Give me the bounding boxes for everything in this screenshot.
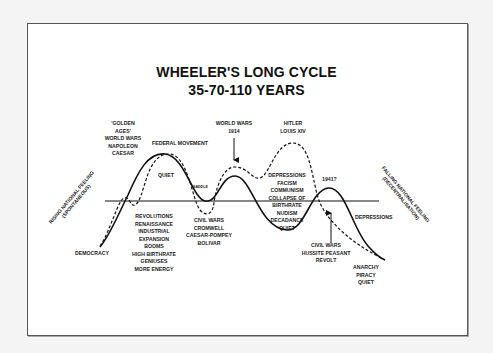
civil-wars-block-label: CIVIL WARS CROMWELL CAESAR-POMPEY BOLIVA…: [178, 217, 240, 247]
label-line: COLLAPSE OF: [262, 195, 312, 203]
label-line: QUIET: [348, 279, 384, 287]
depressions-right-label: DEPRESSIONS: [355, 214, 392, 222]
label-line: CAESAR: [96, 150, 150, 158]
label-line: INDUSTRIAL: [125, 228, 183, 236]
label-line: CAESAR-POMPEY: [178, 232, 240, 240]
democracy-label: DEMOCRACY: [75, 250, 109, 258]
anarchy-block-label: ANARCHY PIRACY QUIET: [348, 264, 384, 287]
civil-wars-right-label: CIVIL WARS HUSSITE PEASANT REVOLT: [295, 242, 357, 265]
saddle-label: SADDLE: [193, 184, 208, 192]
golden-ages-label: 'GOLDEN AGES' WORLD WARS NAPOLEON CAESAR: [96, 120, 150, 158]
quiet-label: QUIET: [158, 172, 174, 180]
label-line: FACISM: [262, 180, 312, 188]
label-line: CROMWELL: [178, 225, 240, 233]
label-line: LOUIS XIV: [271, 128, 315, 136]
label-line: MORE ENERGY: [125, 266, 183, 274]
label-line: REVOLUTIONS: [125, 213, 183, 221]
label-line: DEPRESSIONS: [262, 172, 312, 180]
label-line: RENAISSANCE: [125, 221, 183, 229]
label-line: WORLD WARS: [96, 135, 150, 143]
label-line: BOLIVAR: [178, 240, 240, 248]
label-line: GENIUSES: [125, 258, 183, 266]
label-line: HIGH BIRTHRATE: [125, 251, 183, 259]
label-line: HUSSITE PEASANT: [295, 250, 357, 258]
label-line: WORLD WARS: [207, 120, 261, 128]
label-line: DECADANCE: [262, 217, 312, 225]
label-line: EXPANSION: [125, 236, 183, 244]
label-line: BIRTHRATE: [262, 202, 312, 210]
label-line: HITLER: [271, 120, 315, 128]
label-line: 'GOLDEN: [96, 120, 150, 128]
label-line: QUIET: [262, 225, 312, 233]
cycle-diagram: [0, 0, 493, 353]
label-line: NUDISM: [262, 210, 312, 218]
year-1941-label: 1941?: [322, 176, 337, 184]
revolutions-block-label: REVOLUTIONS RENAISSANCE INDUSTRIAL EXPAN…: [125, 213, 183, 273]
label-line: 1914: [207, 128, 261, 136]
label-line: BOOMS: [125, 243, 183, 251]
world-wars-1914-label: WORLD WARS 1914: [207, 120, 261, 135]
federal-movement-label: FEDERAL MOVEMENT: [152, 140, 208, 148]
label-line: COMMUNISM: [262, 187, 312, 195]
depressions-block-label: DEPRESSIONS FACISM COMMUNISM COLLAPSE OF…: [262, 172, 312, 232]
hitler-label: HITLER LOUIS XIV: [271, 120, 315, 135]
label-line: CIVIL WARS: [295, 242, 357, 250]
label-line: NAPOLEON: [96, 143, 150, 151]
label-line: PIRACY: [348, 272, 384, 280]
label-line: AGES': [96, 128, 150, 136]
label-line: ANARCHY: [348, 264, 384, 272]
label-line: CIVIL WARS: [178, 217, 240, 225]
